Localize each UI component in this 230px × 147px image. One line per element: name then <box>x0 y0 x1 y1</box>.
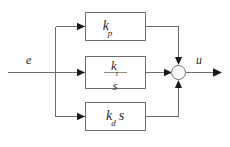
label-output-u: u <box>196 54 202 66</box>
label-block-derivative: kds <box>85 109 145 126</box>
arrowhead-into-derivative <box>77 113 85 120</box>
arrowhead-sum-left <box>164 69 172 76</box>
label-block-proportional: kp <box>0 19 230 36</box>
integral-denominator: s <box>85 79 145 92</box>
arrowhead-output <box>213 68 222 76</box>
arrowhead-sum-bottom <box>175 80 182 88</box>
arrowhead-sum-top <box>175 57 182 65</box>
arrowhead-into-integral <box>77 69 85 76</box>
summing-junction <box>172 66 186 80</box>
integral-numerator: ki <box>85 59 145 76</box>
label-input-e: e <box>26 54 31 66</box>
pid-block-diagram: e u kp ki s kds <box>0 0 230 147</box>
label-block-integral: ki s <box>85 59 145 92</box>
